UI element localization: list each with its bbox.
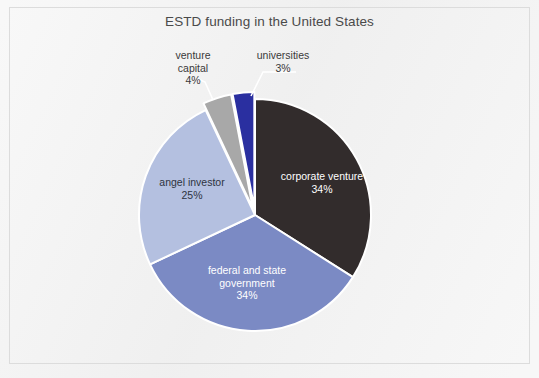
callout-label-venture-capital: venture capital 4%: [160, 49, 226, 87]
leader-line-universities: [251, 72, 296, 96]
callout-label-universities: universities 3%: [243, 49, 323, 74]
pie-slice-group: [139, 92, 371, 331]
pie-chart-screenshot: ESTD funding in the United States corpor…: [0, 0, 539, 378]
